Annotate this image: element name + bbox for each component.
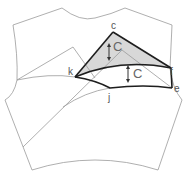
lower-curve-guide [63,88,110,107]
right-shoulder-line [125,8,172,25]
lower-measure-label: C [133,66,142,81]
upper-measure-label: C [113,39,122,54]
lower-curve-k-j-e [75,77,172,88]
point-label-k: k [68,66,74,77]
left-armhole-line [5,25,17,100]
point-label-e: e [174,83,180,94]
neckline [62,8,125,19]
lower-measure-arrow [126,65,130,83]
left-shoulder-line [13,8,62,25]
bust-line [17,76,75,80]
original-dart-leg-left [17,47,95,80]
point-label-f: f [170,66,173,77]
right-side-seam [158,100,182,170]
point-label-j: j [107,92,110,103]
bodice-pattern-diagram: C C c k f e j [0,0,187,181]
point-label-c: c [111,20,116,31]
left-side-seam [5,100,32,170]
hem-line [32,160,158,170]
